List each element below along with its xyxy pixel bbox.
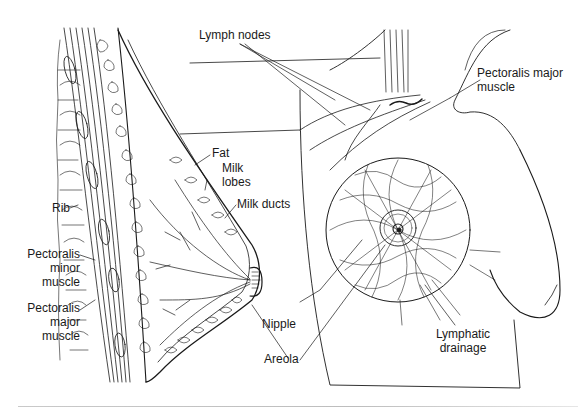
label-areola: Areola <box>264 352 299 366</box>
sagittal-section-art <box>57 28 263 382</box>
label-pectoralis-major-muscle-right: Pectoralis major muscle <box>477 66 563 94</box>
label-lymph-nodes: Lymph nodes <box>199 28 271 42</box>
label-rib: Rib <box>40 201 70 215</box>
label-pectoralis-minor-muscle: Pectoralis minor muscle <box>10 247 80 289</box>
label-milk-ducts: Milk ducts <box>237 197 290 211</box>
bottom-rule-divider <box>18 406 578 407</box>
label-leader-lines <box>70 30 505 360</box>
label-fat: Fat <box>212 146 229 160</box>
anatomy-diagram: Lymph nodes Pectoralis major muscle Fat … <box>0 0 588 412</box>
label-lymphatic-drainage: Lymphatic drainage <box>430 327 496 355</box>
label-milk-lobes: Milk lobes <box>222 161 251 189</box>
label-nipple: Nipple <box>262 317 296 331</box>
breast-anatomy-illustration <box>0 0 588 412</box>
label-pectoralis-major-muscle-left: Pectoralis major muscle <box>10 301 80 343</box>
milk-ducts <box>150 180 250 345</box>
